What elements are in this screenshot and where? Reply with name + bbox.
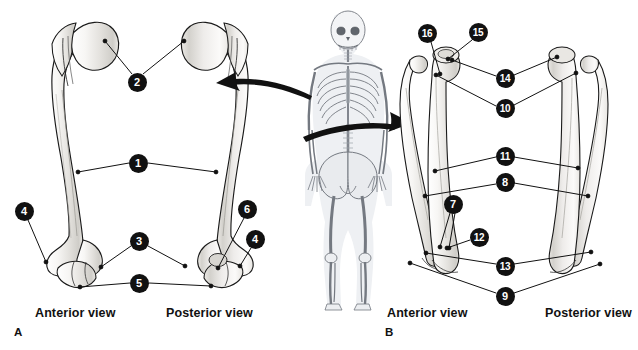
leader-endpoint-13	[424, 251, 428, 255]
leader-endpoint-4	[44, 260, 48, 264]
leader-endpoint-10	[434, 73, 438, 77]
panel-letter-b: B	[385, 326, 393, 338]
leader-endpoint-1	[214, 170, 218, 174]
leader-endpoint-12	[445, 246, 449, 250]
leader-endpoint-2	[182, 39, 186, 43]
callout-15-panel-B[interactable]: 15	[469, 23, 488, 42]
leader-endpoint-3	[99, 265, 103, 269]
leader-line-3	[148, 246, 185, 266]
callout-11-panel-B[interactable]: 11	[496, 147, 515, 166]
arrow-to-panel-a	[216, 72, 312, 100]
callout-1-panel-A[interactable]: 1	[129, 154, 148, 173]
callout-13-panel-B[interactable]: 13	[496, 257, 515, 276]
leader-line-1	[148, 163, 216, 172]
leader-endpoint-9	[598, 262, 602, 266]
leader-endpoint-6	[216, 266, 220, 270]
callout-12-panel-B[interactable]: 12	[470, 228, 489, 247]
callout-5-panel-A[interactable]: 5	[130, 274, 149, 293]
leader-endpoint-9	[408, 261, 412, 265]
view-label-anterior-panel-B: Anterior view	[387, 306, 468, 320]
callout-4-panel-A[interactable]: 4	[246, 230, 265, 249]
leader-endpoint-8	[586, 194, 590, 198]
leader-endpoint-11	[576, 166, 580, 170]
leader-line-2	[143, 41, 184, 74]
panel-a-humerus-posterior	[181, 22, 253, 287]
callout-7-panel-B[interactable]: 7	[444, 195, 463, 214]
leader-endpoint-4	[238, 264, 242, 268]
leader-line-3	[101, 246, 131, 267]
callout-14-panel-B[interactable]: 14	[496, 69, 515, 88]
leader-endpoint-5	[209, 284, 213, 288]
callout-4-panel-A[interactable]: 4	[15, 202, 34, 221]
leader-line-1	[78, 163, 129, 172]
callout-16-panel-B[interactable]: 16	[418, 24, 437, 43]
leader-line-5	[149, 283, 211, 286]
callout-6-panel-A[interactable]: 6	[238, 200, 257, 219]
leader-endpoint-11	[433, 169, 437, 173]
leader-endpoint-10	[574, 71, 578, 75]
leader-endpoint-7	[438, 245, 442, 249]
view-label-posterior-panel-B: Posterior view	[545, 306, 632, 320]
leader-endpoint-3	[183, 264, 187, 268]
figure-artwork	[0, 0, 638, 350]
panel-letter-a: A	[14, 326, 22, 338]
leader-endpoint-13	[589, 250, 593, 254]
callout-2-panel-A[interactable]: 2	[128, 73, 147, 92]
leader-endpoint-8	[423, 194, 427, 198]
leader-endpoint-14	[450, 58, 454, 62]
leader-line-4	[28, 220, 46, 262]
leader-endpoint-5	[78, 285, 82, 289]
panel-a-humerus-anterior	[47, 22, 119, 287]
leader-endpoint-16	[438, 72, 442, 76]
anatomy-figure: 123456478910111213141516 Anterior viewPo…	[0, 0, 638, 350]
human-skeleton-reference	[305, 11, 392, 310]
callout-8-panel-B[interactable]: 8	[496, 173, 515, 192]
leader-endpoint-1	[76, 170, 80, 174]
callout-9-panel-B[interactable]: 9	[496, 287, 515, 306]
view-label-posterior-panel-A: Posterior view	[166, 306, 253, 320]
view-label-anterior-panel-A: Anterior view	[35, 306, 116, 320]
callout-10-panel-B[interactable]: 10	[496, 99, 515, 118]
leader-endpoint-2	[103, 39, 107, 43]
panel-b-forearm-anterior	[400, 47, 460, 274]
panel-b-forearm-posterior	[548, 47, 608, 274]
leader-endpoint-14	[555, 55, 559, 59]
leader-endpoint-15	[446, 57, 450, 61]
callout-3-panel-A[interactable]: 3	[130, 232, 149, 251]
